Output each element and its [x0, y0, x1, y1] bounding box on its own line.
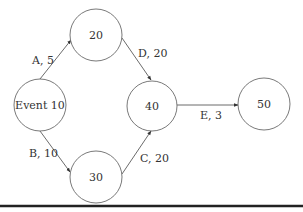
edge-label-a: A, 5 — [31, 54, 54, 67]
node-label: 20 — [89, 29, 103, 42]
network-diagram: Event 10 20 30 40 50 A, 5 B, 10 D, 20 C,… — [0, 0, 303, 212]
node-label: 50 — [257, 98, 271, 111]
node-40: 40 — [127, 81, 177, 131]
edge-label-d: D, 20 — [138, 47, 167, 60]
node-label: 40 — [145, 100, 159, 113]
edge-label-c: C, 20 — [140, 152, 169, 165]
node-20: 20 — [70, 9, 122, 61]
node-30: 30 — [70, 151, 122, 203]
node-event-10: Event 10 — [14, 79, 66, 131]
node-label: Event 10 — [15, 99, 65, 112]
edge-label-b: B, 10 — [29, 147, 58, 160]
node-label: 30 — [89, 171, 103, 184]
edge-label-e: E, 3 — [200, 109, 222, 122]
node-50: 50 — [238, 78, 290, 130]
